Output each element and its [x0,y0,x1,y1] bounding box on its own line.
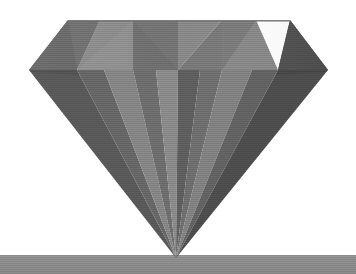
table-sheen [29,20,328,70]
diamond-illustration [0,0,356,274]
ground-plane-group [0,255,356,274]
diamond-render-scene [0,0,356,274]
table-top-edge [68,20,290,22]
ground-plane [0,255,356,274]
